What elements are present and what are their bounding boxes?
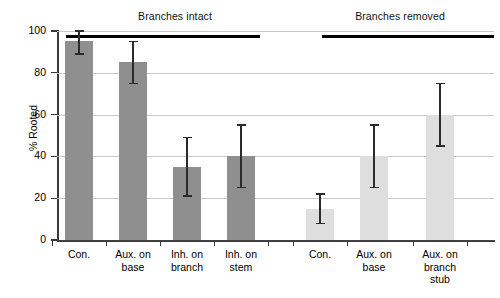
- group-title-branches-intact: Branches intact: [105, 10, 245, 22]
- error-bar-2: [186, 138, 187, 197]
- x-tick-mark-1: [106, 241, 107, 246]
- error-cap-2-lower: [183, 195, 192, 196]
- x-tick-mark-end-1: [467, 241, 468, 246]
- x-tick-mark-3: [214, 241, 215, 246]
- plot-area: [57, 31, 494, 240]
- x-tick-mark-4: [293, 241, 294, 246]
- y-tick-label-0: 0: [0, 233, 46, 245]
- gridline-100: [57, 31, 494, 32]
- x-tick-mark-5: [347, 241, 348, 246]
- error-cap-1-lower: [129, 83, 138, 84]
- x-tick-label-5: Aux. on base: [338, 248, 410, 273]
- error-cap-6-upper: [436, 83, 445, 84]
- x-tick-mark-end-0: [268, 241, 269, 246]
- x-tick-mark-2: [160, 241, 161, 246]
- error-cap-1-upper: [129, 41, 138, 42]
- error-cap-5-lower: [370, 187, 379, 188]
- error-cap-3-lower: [237, 187, 246, 188]
- group-title-branches-removed: Branches removed: [320, 10, 480, 22]
- error-bar-1: [132, 41, 133, 83]
- error-bar-0: [78, 31, 79, 54]
- error-bar-6: [439, 83, 440, 146]
- gridline-0: [57, 240, 494, 241]
- error-cap-0-lower: [75, 53, 84, 54]
- error-cap-2-upper: [183, 137, 192, 138]
- y-tick-label-20: 20: [0, 191, 46, 203]
- bar-1: [119, 62, 147, 240]
- error-bar-5: [373, 125, 374, 188]
- x-tick-mark-6: [413, 241, 414, 246]
- y-tick-label-80: 80: [0, 66, 46, 78]
- y-tick-label-100: 100: [0, 24, 46, 36]
- error-cap-6-lower: [436, 145, 445, 146]
- x-tick-label-6: Aux. on branch stub: [404, 248, 476, 286]
- y-axis-label: % Rooted: [27, 73, 39, 183]
- error-bar-3: [240, 125, 241, 188]
- x-tick-label-3: Inh. on stem: [205, 248, 277, 273]
- x-tick-mark-0: [52, 241, 53, 246]
- error-cap-0-upper: [75, 30, 84, 31]
- y-tick-label-40: 40: [0, 149, 46, 161]
- error-cap-4-lower: [316, 223, 325, 224]
- bar-0: [65, 41, 93, 240]
- error-cap-3-upper: [237, 124, 246, 125]
- y-tick-label-60: 60: [0, 108, 46, 120]
- error-cap-5-upper: [370, 124, 379, 125]
- error-cap-4-upper: [316, 193, 325, 194]
- bar-chart-figure: Branches intact Branches removed % Roote…: [0, 0, 500, 298]
- error-bar-4: [319, 194, 320, 223]
